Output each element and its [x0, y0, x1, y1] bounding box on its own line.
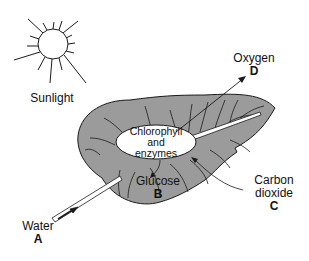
- sunlight-label: Sunlight: [22, 92, 82, 105]
- chlorophyll-line3: enzymes: [116, 148, 196, 159]
- oxygen-label: Oxygen D: [226, 52, 282, 78]
- chlorophyll-label: Chlorophyll and enzymes: [116, 126, 196, 159]
- sunlight-text: Sunlight: [22, 92, 82, 105]
- water-letter: A: [16, 233, 60, 246]
- sun-icon: [14, 19, 86, 83]
- water-label: Water A: [16, 220, 60, 246]
- carbon-dioxide-label: Carbon dioxide C: [246, 174, 302, 213]
- glucose-letter: B: [130, 188, 186, 201]
- oxygen-letter: D: [226, 65, 282, 78]
- carbon-dioxide-letter: C: [246, 200, 302, 213]
- glucose-label: Glucose B: [130, 175, 186, 201]
